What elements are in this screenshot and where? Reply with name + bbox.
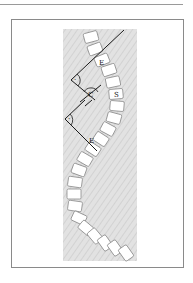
right-angle-dot-upper: · — [74, 76, 76, 84]
label-apex: S — [114, 91, 119, 99]
cobb-angle-diagram: · · E C S E — [0, 0, 193, 283]
right-angle-dot-lower: · — [68, 115, 70, 123]
label-cobb-angle: C — [88, 91, 93, 99]
label-end-vertebra-lower: E — [89, 137, 94, 145]
label-end-vertebra-upper: E — [99, 59, 104, 67]
